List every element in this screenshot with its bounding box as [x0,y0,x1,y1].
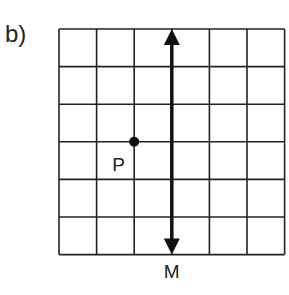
arrow-down-icon [164,239,180,255]
mirror-line-label: M [164,261,180,283]
arrow-up-icon [164,29,180,45]
point-p-dot [129,137,139,147]
point-p [129,137,139,147]
point-p-label: P [112,154,125,176]
grid-diagram [0,0,289,295]
